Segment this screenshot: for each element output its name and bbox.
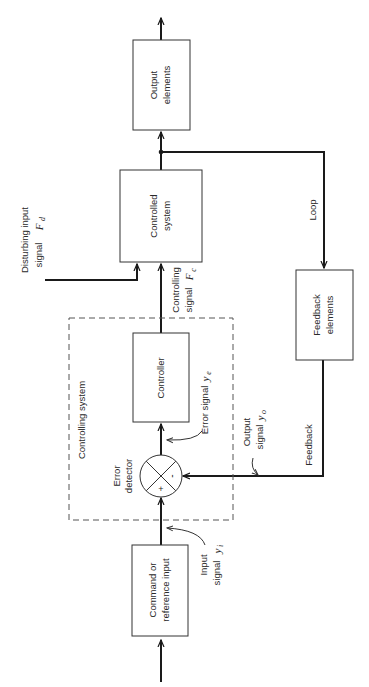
svg-text:Output: Output — [241, 417, 252, 446]
plus-sign: + — [158, 484, 163, 494]
svg-text:o: o — [259, 410, 268, 414]
feedback-elements-label-1: Feedback — [311, 294, 322, 336]
output-elements-label-2: elements — [161, 65, 172, 104]
loop-label: Loop — [307, 199, 318, 220]
output-signal-pointer — [252, 458, 258, 475]
controlled-system-block: Controlled system — [120, 170, 202, 262]
feedback-path-label: Feedback — [303, 424, 314, 466]
svg-text:signal: signal — [254, 425, 265, 450]
svg-text:signal: signal — [183, 288, 194, 313]
error-signal-pointer — [167, 431, 202, 440]
error-detector-label-2: detector — [123, 459, 134, 493]
svg-text:Controlling: Controlling — [170, 267, 181, 312]
svg-text:e: e — [204, 371, 213, 375]
svg-text:i: i — [216, 545, 225, 547]
output-elements-label-1: Output — [148, 70, 159, 99]
input-signal-label: Input signal y i — [198, 545, 225, 586]
svg-text:F: F — [183, 273, 195, 281]
error-detector-label-1: Error — [111, 465, 122, 486]
svg-text:y: y — [254, 415, 266, 421]
svg-text:y: y — [199, 376, 211, 382]
feedback-elements-block: Feedback elements — [296, 270, 353, 360]
controlling-system-label: Controlling system — [76, 381, 87, 459]
output-signal-label: Output signal y o — [241, 410, 268, 449]
wire-disturbance — [45, 264, 137, 280]
svg-text:Error signal: Error signal — [199, 386, 210, 435]
disturbing-signal-label: Disturbing input signal F d — [19, 207, 47, 273]
error-signal-label: Error signal y e — [199, 371, 213, 435]
svg-text:d: d — [38, 216, 47, 221]
svg-text:signal: signal — [33, 243, 44, 268]
controller-block: Controller — [133, 333, 189, 422]
controlling-signal-label: Controlling signal F c — [170, 267, 198, 312]
error-detector-junction: + - — [140, 455, 182, 497]
controlled-system-label-1: Controlled — [148, 194, 159, 237]
svg-text:y: y — [211, 548, 223, 554]
control-system-block-diagram: Output elements Controlled system Contro… — [0, 0, 369, 687]
controller-label: Controller — [155, 357, 166, 398]
svg-text:signal: signal — [211, 561, 222, 586]
svg-text:Input: Input — [198, 554, 209, 575]
command-label-1: Command or — [147, 563, 158, 618]
svg-text:Disturbing input: Disturbing input — [19, 207, 30, 273]
command-label-2: reference input — [160, 558, 171, 622]
minus-sign: - — [166, 474, 177, 477]
command-block: Command or reference input — [132, 545, 188, 636]
controlled-system-label-2: system — [161, 201, 172, 231]
svg-text:F: F — [33, 223, 45, 231]
output-elements-block: Output elements — [133, 40, 190, 130]
svg-text:c: c — [189, 268, 198, 272]
input-signal-pointer — [167, 528, 205, 545]
feedback-elements-label-2: elements — [324, 295, 335, 334]
